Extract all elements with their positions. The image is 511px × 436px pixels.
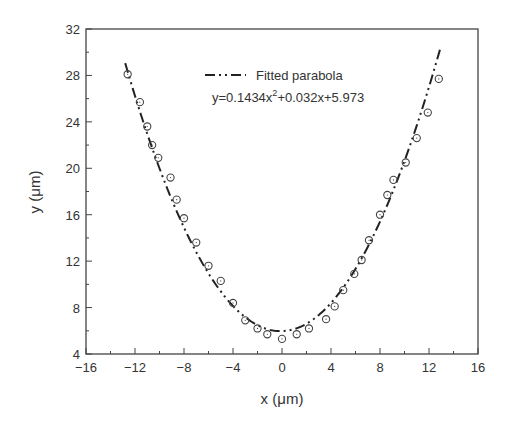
x-tick-label: 8 [376,360,383,375]
chart-canvas: −16−12−8−40481216 48121620242832 Fitted … [0,0,511,436]
data-point-markers [124,71,442,343]
y-tick-label: 20 [66,161,80,176]
x-tick-label: 4 [327,360,334,375]
y-tick-label: 12 [66,254,80,269]
y-tick-labels: 48121620242832 [66,22,80,362]
x-tick-label: 12 [422,360,436,375]
y-tick-label: 28 [66,68,80,83]
x-tick-label: 16 [471,360,485,375]
legend-equation: y=0.1434x2+0.032x+5.973 [212,88,364,105]
legend: Fitted parabola y=0.1434x2+0.032x+5.973 [205,68,364,105]
y-tick-label: 4 [73,347,80,362]
x-tick-label: −8 [177,360,192,375]
x-tick-labels: −16−12−8−40481216 [75,360,485,375]
y-tick-label: 32 [66,22,80,37]
x-tick-label: 0 [278,360,285,375]
y-tick-label: 16 [66,208,80,223]
x-tick-label: −12 [124,360,146,375]
y-tick-label: 8 [73,301,80,316]
y-axis-title: y (μm) [26,171,43,214]
legend-label: Fitted parabola [256,68,343,83]
x-tick-label: −4 [226,360,241,375]
x-tick-label: −16 [75,360,97,375]
y-tick-label: 24 [66,115,80,130]
x-axis-title: x (μm) [261,390,304,407]
